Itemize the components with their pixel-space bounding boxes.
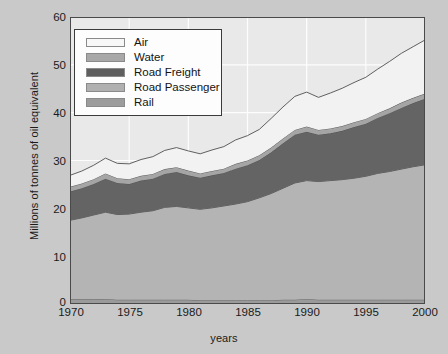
legend-swatch-water [86, 53, 125, 62]
x-tick-1970: 1970 [51, 306, 91, 318]
legend-item-rail: Rail [75, 95, 221, 110]
x-tick-1990: 1990 [287, 306, 327, 318]
y-tick-50: 50 [38, 59, 66, 71]
y-tick-40: 40 [38, 107, 66, 119]
legend-label-road-passenger: Road Passenger [134, 82, 220, 93]
legend-label-road-freight: Road Freight [134, 67, 200, 78]
chart-legend: Air Water Road Freight Road Passenger Ra… [74, 29, 222, 116]
legend-label-air: Air [134, 37, 148, 48]
legend-item-water: Water [75, 50, 221, 65]
x-tick-2000: 2000 [405, 306, 445, 318]
legend-item-air: Air [75, 35, 221, 50]
y-tick-30: 30 [38, 155, 66, 167]
legend-swatch-air [86, 38, 125, 47]
legend-item-road-freight: Road Freight [75, 65, 221, 80]
y-tick-60: 60 [38, 11, 66, 23]
legend-label-water: Water [134, 52, 164, 63]
legend-swatch-road-passenger [86, 83, 125, 92]
x-axis-title: years [0, 332, 448, 344]
y-tick-20: 20 [38, 203, 66, 215]
x-tick-1980: 1980 [169, 306, 209, 318]
legend-item-road-passenger: Road Passenger [75, 80, 221, 95]
y-tick-10: 10 [38, 251, 66, 263]
x-tick-1985: 1985 [228, 306, 268, 318]
legend-swatch-rail [86, 98, 125, 107]
x-tick-1995: 1995 [346, 306, 386, 318]
legend-swatch-road-freight [86, 68, 125, 77]
x-tick-1975: 1975 [110, 306, 150, 318]
chart-figure: Millions of tonnes of oil equivalent yea… [0, 0, 448, 354]
legend-label-rail: Rail [134, 97, 154, 108]
